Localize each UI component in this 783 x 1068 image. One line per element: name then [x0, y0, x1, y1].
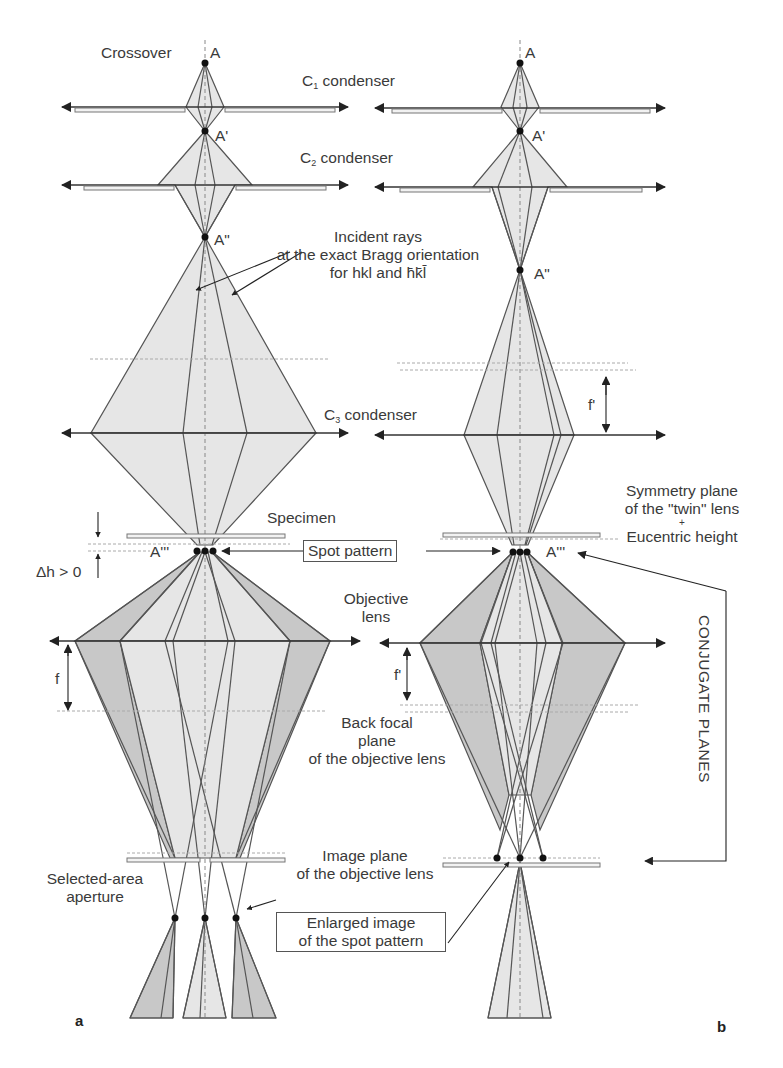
c1-suffix: condenser [318, 72, 395, 89]
panel-label-a: a [75, 1012, 83, 1029]
label-c1-condenser: C1 condenser [302, 72, 395, 95]
label-objective-lens: Objective lens [336, 590, 416, 626]
label-crossover: Crossover [101, 44, 172, 62]
label-image-plane: Image plane of the objective lens [280, 847, 450, 883]
label-incident-rays: Incident rays at the exact Bragg orienta… [248, 228, 508, 282]
objective-line-1: Objective [336, 590, 416, 608]
objective-line-2: lens [336, 608, 416, 626]
incident-rays-line-2: at the exact Bragg orientation [248, 246, 508, 264]
label-selected-area-aperture: Selected-area aperture [30, 870, 160, 906]
c2-prefix: C [300, 149, 311, 166]
label-c3-condenser: C3 condenser [324, 406, 417, 429]
label-point-a2-b: A" [534, 265, 550, 283]
label-spot-pattern: Spot pattern [303, 540, 397, 562]
image-plane-line-1: Image plane [280, 847, 450, 865]
label-point-a3: A''' [150, 543, 169, 561]
label-c2-condenser: C2 condenser [300, 149, 393, 172]
label-delta-h: Δh > 0 [36, 563, 81, 581]
symmetry-line-2: of the "twin" lens [592, 500, 772, 518]
saa-line-1: Selected-area [30, 870, 160, 888]
image-plane-line-2: of the objective lens [280, 865, 450, 883]
bfp-line-2: plane [282, 732, 472, 750]
panel-label-b: b [717, 1018, 726, 1035]
label-conjugate-planes: CONJUGATE PLANES [695, 615, 713, 783]
c1-prefix: C [302, 72, 313, 89]
c3-prefix: C [324, 406, 335, 423]
enlarged-line-2: of the spot pattern [281, 932, 441, 950]
c3-suffix: condenser [340, 406, 417, 423]
symmetry-line-3: + [592, 518, 772, 528]
label-enlarged-image: Enlarged image of the spot pattern [276, 912, 446, 952]
label-f: f [55, 670, 59, 688]
label-f-prime-obj: f' [394, 666, 401, 684]
label-symmetry-plane: Symmetry plane of the "twin" lens + Euce… [592, 482, 772, 546]
label-point-a: A [210, 44, 220, 62]
label-back-focal-plane: Back focal plane of the objective lens [282, 714, 472, 768]
label-point-a1: A' [215, 127, 228, 145]
symmetry-line-1: Symmetry plane [592, 482, 772, 500]
label-specimen: Specimen [267, 509, 336, 527]
saa-line-2: aperture [30, 888, 160, 906]
c2-suffix: condenser [316, 149, 393, 166]
incident-rays-line-3: for hkl and h̄k̄l̄ [248, 264, 508, 282]
label-point-a3-b: A''' [546, 543, 565, 561]
incident-rays-line-1: Incident rays [248, 228, 508, 246]
label-point-a1-b: A' [532, 127, 545, 145]
bfp-line-3: of the objective lens [282, 750, 472, 768]
enlarged-line-1: Enlarged image [281, 914, 441, 932]
symmetry-line-4: Eucentric height [592, 528, 772, 546]
label-f-prime-c3: f' [588, 396, 595, 414]
label-point-a-b: A [525, 44, 535, 62]
bfp-line-1: Back focal [282, 714, 472, 732]
label-point-a2: A" [214, 231, 230, 249]
